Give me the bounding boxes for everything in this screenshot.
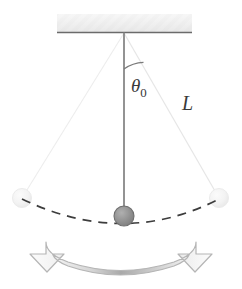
angle-subscript-glyph: 0: [140, 85, 146, 100]
amplitude-angle-arc: [124, 62, 144, 69]
oscillation-direction-arrow: [30, 242, 212, 275]
double-headed-arrow-shape: [30, 242, 212, 275]
right-ghost-bob-circle: [210, 189, 229, 208]
pendulum-bob-left-ghost: [13, 189, 32, 208]
left-ghost-bob-circle: [13, 189, 32, 208]
pendulum-bob-right-ghost: [210, 189, 229, 208]
pendulum-diagram-canvas: θ0 L: [0, 0, 242, 289]
angle-symbol-glyph: θ: [131, 75, 140, 96]
pendulum-bob: [114, 206, 134, 226]
string-length-label: L: [181, 92, 193, 114]
amplitude-angle-label: θ0: [131, 75, 147, 100]
pendulum-bob-circle: [114, 206, 134, 226]
ceiling-support: [57, 14, 192, 33]
pendulum-string-right-extreme: [124, 33, 219, 198]
pendulum-diagram: θ0 L: [0, 0, 242, 289]
pendulum-string-left-extreme: [22, 33, 124, 198]
ceiling-shade-overlay: [57, 14, 192, 32]
